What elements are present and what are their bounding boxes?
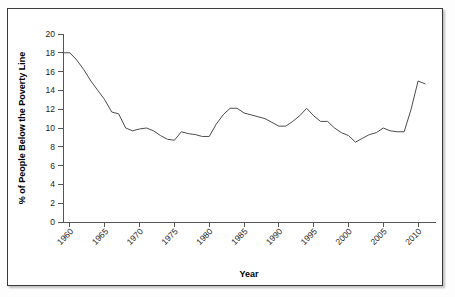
page-root: 02468101214161820 1960196519701975198019… [0,0,455,297]
x-tick-label: 2005 [368,226,389,247]
y-tick-label: 14 [46,85,56,95]
y-tick-label: 12 [46,104,56,114]
x-tick-label: 1965 [90,226,111,247]
x-tick-label: 1990 [264,226,285,247]
x-tick-label: 1985 [229,226,250,247]
y-tick-label: 20 [46,29,56,39]
figure-frame: 02468101214161820 1960196519701975198019… [7,8,443,286]
series-group [63,53,425,142]
y-tick-group: 02468101214161820 [46,29,63,227]
x-tick-label: 2010 [403,226,424,247]
y-tick-label: 8 [50,142,55,152]
x-tick-label: 1975 [159,226,180,247]
y-tick-label: 16 [46,67,56,77]
y-tick-label: 10 [46,123,56,133]
x-tick-label: 1970 [125,226,146,247]
y-tick-label: 2 [50,198,55,208]
y-tick-label: 0 [50,217,55,227]
series-line-poverty-rate [63,53,425,142]
y-axis-title: % of People Below the Poverty Line [17,52,27,205]
x-tick-label: 1995 [299,226,320,247]
y-tick-label: 6 [50,161,55,171]
y-tick-label: 4 [50,179,55,189]
x-tick-label: 1980 [194,226,215,247]
x-axis-title: Year [239,269,259,279]
poverty-line-chart: 02468101214161820 1960196519701975198019… [8,9,442,285]
y-tick-label: 18 [46,48,56,58]
x-tick-label: 2000 [333,226,354,247]
x-tick-label: 1960 [55,226,76,247]
x-tick-group: 1960196519701975198019851990199520002005… [55,222,424,247]
